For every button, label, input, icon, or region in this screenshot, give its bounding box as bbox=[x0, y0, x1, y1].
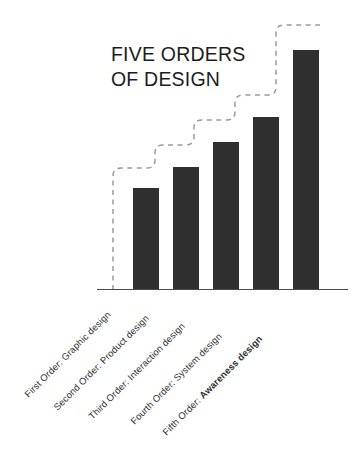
bar-fourth-order bbox=[253, 117, 279, 289]
category-labels: First Order: Graphic design Second Order… bbox=[0, 292, 363, 461]
five-orders-of-design-chart: FIVE ORDERS OF DESIGN First Order: Graph… bbox=[0, 0, 363, 461]
bar-third-order bbox=[213, 142, 239, 289]
category-label-fifth-order-prefix: Fifth Order: bbox=[160, 393, 205, 438]
category-label-third-order: Third Order: Interaction design bbox=[86, 320, 187, 421]
page-title: FIVE ORDERS OF DESIGN bbox=[111, 42, 311, 92]
bar-first-order bbox=[133, 188, 159, 289]
category-label-first-order: First Order: Graphic design bbox=[22, 309, 113, 400]
x-axis-line bbox=[97, 289, 348, 290]
category-label-first-order-text: First Order: Graphic design bbox=[22, 309, 113, 400]
bar-second-order bbox=[173, 167, 199, 289]
category-label-third-order-text: Third Order: Interaction design bbox=[86, 320, 187, 421]
